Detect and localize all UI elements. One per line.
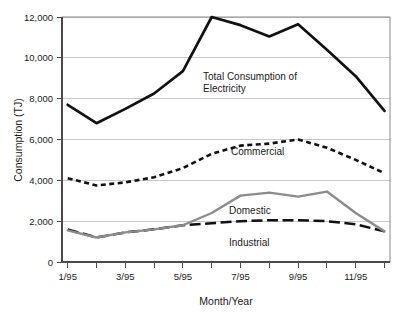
- y-tick-label: 12,000: [24, 12, 53, 23]
- series-label-total-line1: Total Consumption of: [203, 71, 297, 82]
- x-tick-label: 9/95: [289, 271, 308, 282]
- series-label-total-line2: Electricity: [203, 83, 246, 94]
- series-group: [68, 17, 385, 238]
- series-label-commercial: Commercial: [231, 146, 284, 157]
- y-tick-label: 10,000: [24, 52, 53, 63]
- y-tick-label: 4,000: [29, 175, 53, 186]
- y-tick-label: 6,000: [29, 134, 53, 145]
- electricity-consumption-chart: 12,000 10,000 8,000 6,000 4,000 2,000 0 …: [0, 0, 406, 319]
- y-tick-label: 8,000: [29, 93, 53, 104]
- x-axis-title: Month/Year: [199, 295, 253, 307]
- series-label-domestic: Domestic: [229, 205, 271, 216]
- chart-canvas: 12,000 10,000 8,000 6,000 4,000 2,000 0 …: [0, 0, 406, 319]
- x-tick-marks: [68, 262, 385, 268]
- series-line-commercial: [68, 140, 385, 186]
- series-label-industrial: Industrial: [229, 237, 270, 248]
- y-tick-labels: 12,000 10,000 8,000 6,000 4,000 2,000 0: [24, 12, 53, 268]
- x-tick-label: 11/95: [344, 271, 367, 282]
- grid-lines: [62, 17, 390, 221]
- y-tick-marks: [57, 17, 62, 262]
- x-tick-label: 5/95: [174, 271, 193, 282]
- x-tick-labels: 1/95 3/95 5/95 7/95 9/95 11/95: [58, 271, 367, 282]
- y-tick-label: 2,000: [29, 216, 53, 227]
- x-tick-label: 3/95: [116, 271, 135, 282]
- y-tick-label: 0: [48, 257, 53, 268]
- x-tick-label: 1/95: [58, 271, 77, 282]
- y-axis-title: Consumption (TJ): [12, 98, 24, 181]
- series-line-domestic: [68, 192, 385, 238]
- x-tick-label: 7/95: [231, 271, 250, 282]
